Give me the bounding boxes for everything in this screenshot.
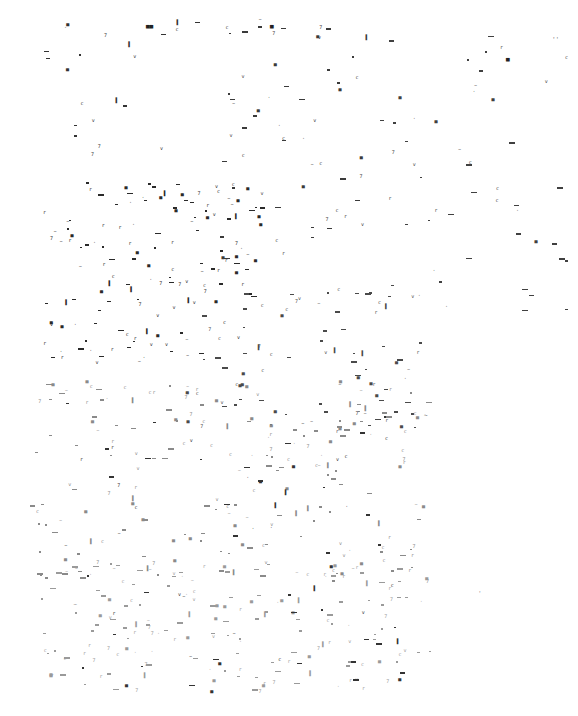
dash-mark <box>74 135 77 137</box>
dash-mark <box>200 459 202 460</box>
dash-mark <box>137 570 143 571</box>
glyph-mark: v <box>298 296 301 301</box>
dash-mark <box>336 573 338 574</box>
glyph-mark: v <box>411 294 414 299</box>
glyph-mark: r <box>134 336 137 341</box>
dash-mark <box>522 289 528 290</box>
glyph-mark: r <box>128 241 131 246</box>
dash-mark <box>365 369 367 370</box>
glyph-mark: ▄ <box>416 414 419 419</box>
glyph-mark: r <box>344 214 347 219</box>
glyph-mark: r <box>134 485 137 490</box>
glyph-mark: ~ <box>414 502 417 507</box>
dash-mark <box>360 432 365 434</box>
glyph-mark: c <box>469 160 472 165</box>
dash-mark <box>244 467 250 468</box>
dash-mark <box>170 351 173 352</box>
dash-mark <box>255 677 258 678</box>
dash-mark <box>340 178 346 180</box>
glyph-mark: r <box>362 686 365 691</box>
glyph-mark: 7 <box>135 688 138 693</box>
dash-mark <box>281 28 286 29</box>
dash-mark <box>400 672 405 674</box>
glyph-mark: ~ <box>227 196 230 201</box>
dash-mark <box>72 566 78 568</box>
dash-mark <box>255 618 259 620</box>
glyph-mark: r <box>80 457 83 462</box>
dash-mark <box>199 353 204 354</box>
dash-mark <box>211 633 215 634</box>
dash-mark <box>331 623 333 625</box>
glyph-mark: c <box>336 208 339 213</box>
glyph-mark: ▄ <box>357 374 360 379</box>
glyph-mark: v <box>348 639 351 644</box>
glyph-mark: ▀ <box>399 466 402 471</box>
glyph-mark: c <box>496 186 499 191</box>
glyph-mark: ▀ <box>66 69 69 74</box>
dash-mark <box>239 399 242 400</box>
glyph-mark: c <box>218 336 221 341</box>
glyph-mark: · <box>129 200 132 205</box>
dash-mark <box>95 624 99 626</box>
glyph-mark: r <box>102 223 105 228</box>
glyph-mark: v <box>193 300 196 305</box>
glyph-mark: r <box>83 651 86 656</box>
glyph-mark: r <box>61 355 64 360</box>
glyph-mark: c <box>81 101 84 106</box>
glyph-mark: ▄ <box>491 96 494 101</box>
glyph-mark: ▀ <box>281 315 284 320</box>
dash-mark <box>360 572 364 574</box>
glyph-mark: ▄ <box>292 463 295 468</box>
glyph-mark: ▄ <box>181 191 184 196</box>
glyph-mark: v <box>545 79 548 84</box>
dash-mark <box>77 553 80 555</box>
dash-mark <box>255 207 257 208</box>
glyph-mark: · <box>60 349 63 354</box>
glyph-mark: r <box>111 445 114 450</box>
glyph-mark: · <box>516 208 519 213</box>
glyph-mark: v <box>362 610 365 615</box>
glyph-mark: ▄ <box>435 118 438 123</box>
glyph-mark: v <box>261 191 264 196</box>
glyph-mark: 7 <box>200 424 203 429</box>
dash-mark <box>169 277 171 278</box>
glyph-mark: ~ <box>65 388 68 393</box>
dash-mark <box>154 247 156 249</box>
dash-mark <box>45 577 48 579</box>
dash-mark <box>254 569 259 570</box>
dash-mark <box>228 93 230 95</box>
dash-mark <box>72 299 76 300</box>
glyph-mark: c <box>121 579 124 584</box>
glyph-mark: r <box>173 637 176 642</box>
dash-mark <box>299 99 305 100</box>
glyph-mark: 7 <box>273 680 276 685</box>
dash-mark <box>194 217 196 218</box>
dash-mark <box>215 509 217 510</box>
dash-mark <box>190 202 194 203</box>
glyph-mark: ▀ <box>246 188 249 193</box>
glyph-mark: ▀ <box>334 565 337 570</box>
glyph-mark: c <box>278 657 281 662</box>
dash-mark <box>488 36 494 37</box>
dash-mark <box>75 612 77 614</box>
glyph-mark: r <box>388 535 391 540</box>
dash-mark <box>45 524 47 526</box>
dash-mark <box>291 612 297 613</box>
glyph-mark: · <box>267 95 270 100</box>
dash-mark <box>384 389 388 390</box>
glyph-mark: ▐ <box>395 639 398 644</box>
glyph-mark: ▄ <box>250 415 253 420</box>
dash-mark <box>339 484 343 485</box>
glyph-mark: v <box>133 54 136 59</box>
dash-mark <box>376 643 382 645</box>
glyph-mark: c <box>344 454 347 459</box>
glyph-mark: ▄ <box>215 298 218 303</box>
dash-mark <box>439 281 442 283</box>
dash-mark <box>220 250 223 252</box>
glyph-mark: v <box>92 118 95 123</box>
dash-mark <box>294 683 300 684</box>
glyph-mark: ▀ <box>147 265 150 270</box>
dash-mark <box>155 233 161 234</box>
glyph-mark: ▀ <box>422 506 425 511</box>
glyph-mark: ▐ <box>320 642 323 647</box>
